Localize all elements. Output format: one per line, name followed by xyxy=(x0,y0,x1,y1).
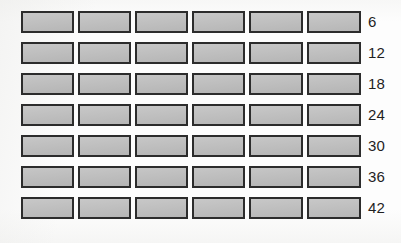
brick xyxy=(307,11,361,33)
brick xyxy=(192,42,245,64)
brick-row: 12 xyxy=(0,42,401,64)
row-total-label: 30 xyxy=(368,135,400,157)
brick xyxy=(135,104,188,126)
brick xyxy=(78,104,131,126)
brick xyxy=(78,42,131,64)
brick xyxy=(21,135,74,157)
brick-row: 6 xyxy=(0,11,401,33)
brick xyxy=(307,104,361,126)
brick xyxy=(78,11,131,33)
brick xyxy=(135,197,188,219)
brick xyxy=(192,11,245,33)
brick xyxy=(249,135,303,157)
brick xyxy=(249,104,303,126)
brick xyxy=(135,11,188,33)
brick xyxy=(249,73,303,95)
brick-row: 30 xyxy=(0,135,401,157)
row-total-label: 42 xyxy=(368,197,400,219)
brick xyxy=(249,42,303,64)
brick xyxy=(307,73,361,95)
brick-row: 18 xyxy=(0,73,401,95)
brick xyxy=(135,166,188,188)
brick xyxy=(21,73,74,95)
brick-grid: 6 12 18 24 30 xyxy=(0,0,401,243)
brick xyxy=(192,166,245,188)
brick xyxy=(249,197,303,219)
brick xyxy=(21,197,74,219)
brick xyxy=(78,166,131,188)
brick xyxy=(78,135,131,157)
row-total-label: 18 xyxy=(368,73,400,95)
brick xyxy=(21,11,74,33)
brick xyxy=(307,166,361,188)
brick-row: 36 xyxy=(0,166,401,188)
brick xyxy=(21,42,74,64)
brick xyxy=(135,73,188,95)
brick-row: 24 xyxy=(0,104,401,126)
row-total-label: 6 xyxy=(368,11,400,33)
brick xyxy=(307,135,361,157)
brick xyxy=(78,73,131,95)
brick xyxy=(21,166,74,188)
brick xyxy=(21,104,74,126)
brick xyxy=(192,135,245,157)
row-total-label: 24 xyxy=(368,104,400,126)
brick-row: 42 xyxy=(0,197,401,219)
brick xyxy=(135,42,188,64)
brick xyxy=(307,42,361,64)
brick xyxy=(192,104,245,126)
brick xyxy=(307,197,361,219)
brick xyxy=(249,11,303,33)
brick xyxy=(78,197,131,219)
brick xyxy=(249,166,303,188)
row-total-label: 36 xyxy=(368,166,400,188)
brick xyxy=(192,197,245,219)
brick xyxy=(192,73,245,95)
row-total-label: 12 xyxy=(368,42,400,64)
brick xyxy=(135,135,188,157)
